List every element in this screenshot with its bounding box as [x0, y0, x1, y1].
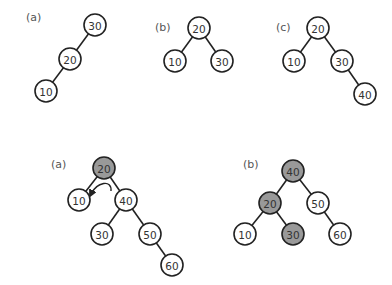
node-value: 30 — [88, 20, 101, 32]
node-value: 10 — [287, 56, 300, 68]
node-value: 30 — [215, 56, 228, 68]
tree-label: (a) — [26, 11, 41, 24]
tree-node: 20 — [259, 192, 281, 214]
rotation-arrow-icon — [91, 183, 111, 194]
tree-node: 40 — [354, 83, 376, 105]
tree-node: 50 — [139, 223, 161, 245]
tree-node: 40 — [282, 160, 304, 182]
tree-node: 20 — [188, 17, 210, 39]
node-value: 10 — [72, 195, 85, 207]
node-value: 20 — [63, 54, 76, 66]
tree-node: 30 — [84, 14, 106, 36]
tree-label: (a) — [51, 158, 66, 171]
node-value: 40 — [286, 166, 299, 178]
tree-label: (b) — [155, 21, 171, 34]
node-value: 30 — [335, 56, 348, 68]
tree-node: 20 — [59, 48, 81, 70]
node-value: 20 — [311, 23, 324, 35]
tree-node: 30 — [91, 223, 113, 245]
tree-node: 30 — [282, 223, 304, 245]
node-value: 60 — [165, 260, 178, 272]
tree-top-a: (a)302010 — [26, 11, 106, 102]
tree-node: 30 — [331, 50, 353, 72]
tree-node: 10 — [68, 189, 90, 211]
tree-node: 20 — [307, 17, 329, 39]
tree-bottom-b: (b)402050103060 — [234, 158, 351, 245]
tree-node: 40 — [115, 189, 137, 211]
node-value: 10 — [39, 86, 52, 98]
tree-node: 10 — [283, 50, 305, 72]
node-value: 40 — [358, 89, 371, 101]
tree-label: (b) — [243, 158, 259, 171]
tree-node: 20 — [93, 157, 115, 179]
tree-node: 10 — [164, 50, 186, 72]
tree-top-c: (c)20103040 — [276, 17, 376, 105]
node-value: 50 — [311, 198, 324, 210]
node-value: 20 — [263, 198, 276, 210]
node-value: 20 — [192, 23, 205, 35]
node-value: 60 — [333, 229, 346, 241]
node-value: 30 — [286, 229, 299, 241]
tree-label: (c) — [276, 21, 291, 34]
tree-node: 30 — [211, 50, 233, 72]
tree-rotation-diagram: (a)302010(b)201030(c)20103040(a)20104030… — [0, 0, 392, 285]
node-value: 30 — [95, 229, 108, 241]
tree-bottom-a: (a)201040305060 — [51, 157, 183, 276]
tree-node: 50 — [307, 192, 329, 214]
tree-node: 60 — [329, 223, 351, 245]
node-value: 10 — [168, 56, 181, 68]
node-value: 50 — [143, 229, 156, 241]
tree-node: 10 — [234, 223, 256, 245]
tree-node: 60 — [161, 254, 183, 276]
node-value: 20 — [97, 163, 110, 175]
node-value: 10 — [238, 229, 251, 241]
tree-node: 10 — [35, 80, 57, 102]
tree-top-b: (b)201030 — [155, 17, 233, 72]
node-value: 40 — [119, 195, 132, 207]
